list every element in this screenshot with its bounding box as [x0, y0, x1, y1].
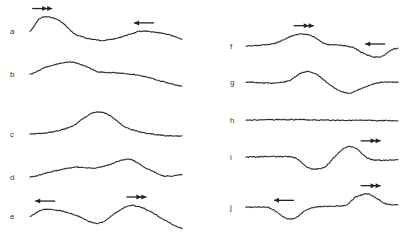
panel-label: j [229, 203, 232, 212]
panel-i: i [230, 138, 398, 169]
trace-g [246, 71, 398, 93]
panel-c: c [10, 112, 182, 139]
panel-label: g [230, 78, 234, 87]
trace-e [30, 205, 182, 228]
panel-j: j [229, 183, 398, 219]
arrow-left-icon [274, 198, 294, 203]
panel-label: e [10, 212, 15, 221]
arrow-left-icon [365, 41, 385, 46]
panel-label: b [10, 70, 15, 79]
panel-label: f [230, 42, 233, 51]
trace-a [30, 17, 182, 41]
double-arrow-right-icon [361, 138, 381, 143]
double-arrow-right-icon [361, 183, 381, 188]
arrow-left-icon [35, 199, 55, 204]
panels-group: abcdefghij [10, 6, 398, 228]
panel-d: d [10, 159, 182, 182]
trace-b [30, 62, 182, 86]
trace-i [246, 146, 398, 169]
panel-h: h [230, 116, 398, 125]
double-arrow-right-icon [294, 23, 314, 28]
double-arrow-right-icon [32, 6, 52, 11]
panel-label: h [230, 116, 234, 125]
trace-d [30, 159, 182, 177]
panel-g: g [230, 71, 398, 93]
panel-f: f [230, 23, 398, 57]
panel-a: a [10, 6, 182, 41]
panel-label: c [10, 130, 14, 139]
trace-h [246, 119, 398, 121]
trace-f [246, 34, 398, 58]
panel-label: d [10, 173, 14, 182]
double-arrow-right-icon [126, 194, 146, 199]
trace-j [246, 194, 398, 220]
panel-label: a [10, 27, 15, 36]
panel-b: b [10, 62, 182, 86]
panel-label: i [230, 153, 232, 162]
arrow-left-icon [134, 20, 154, 25]
figure-traces: abcdefghij [0, 0, 407, 238]
panel-e: e [10, 194, 182, 228]
trace-c [30, 112, 182, 137]
